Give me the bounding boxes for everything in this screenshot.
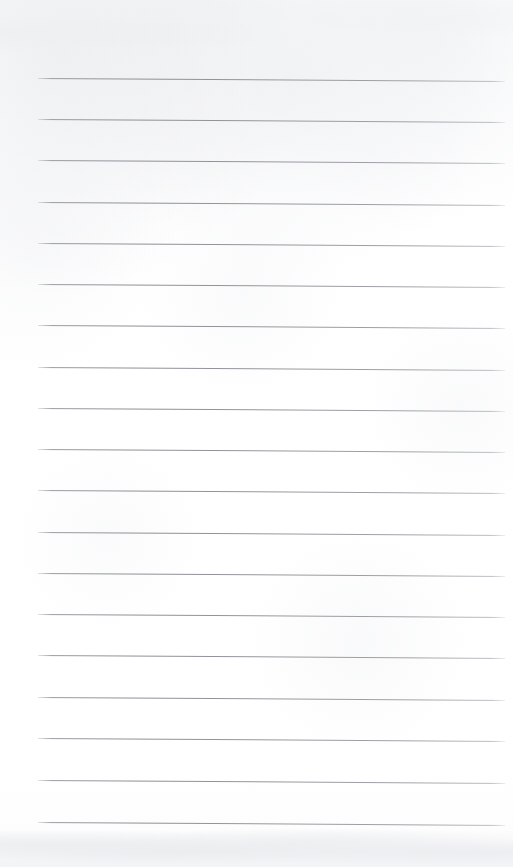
rule-line: [38, 78, 505, 82]
rule-line: [38, 202, 505, 206]
rule-line: [38, 822, 505, 826]
rule-line: [38, 408, 505, 412]
rule-line: [38, 780, 505, 784]
rule-line: [38, 367, 505, 371]
rule-line: [38, 614, 505, 618]
rule-line: [38, 119, 505, 123]
rule-line: [38, 325, 505, 329]
scan-top-shading: [0, 0, 513, 62]
rule-line: [38, 738, 505, 742]
rule-line: [38, 655, 505, 659]
rule-line: [38, 573, 505, 577]
rule-line: [38, 449, 505, 453]
scan-bottom-shading: [0, 829, 513, 867]
rule-line: [38, 697, 505, 701]
rule-line: [38, 490, 505, 494]
rule-line: [38, 284, 505, 288]
scanned-page: [0, 0, 513, 867]
rule-line: [38, 532, 505, 536]
rule-line: [38, 243, 505, 247]
rule-line: [38, 160, 505, 164]
